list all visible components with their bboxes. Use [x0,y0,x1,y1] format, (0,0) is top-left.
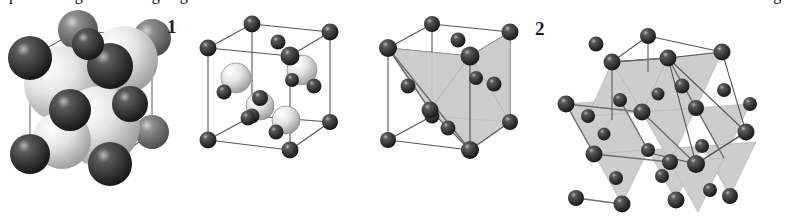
crystal-structure-figure: Space-filling model: large light spheres… [0,0,798,222]
panel-4-tetrahedral-network: Extended network of corner-sharing tetra… [550,0,798,222]
panel-3-caption: Unit cell with two shaded tetrahedra hig… [370,0,550,4]
panel-1-space-filling: Space-filling model: large light spheres… [0,0,190,222]
panel-2-ball-and-stick: Ball-and-stick unit cell: dark spheres a… [190,0,370,222]
panel-2-interior-light-atoms [221,55,317,134]
panel-2-caption: Ball-and-stick unit cell: dark spheres a… [190,0,370,4]
panel-1-caption: Space-filling model: large light spheres… [0,0,190,4]
panel-4-caption: Extended network of corner-sharing tetra… [550,0,798,4]
panel-1-label: 1 [167,17,177,36]
panel-3-polyhedral-cell: Unit cell with two shaded tetrahedra hig… [370,0,550,222]
panel-4-tetrahedra [566,52,756,212]
panel-2-dark-atoms [200,16,339,159]
